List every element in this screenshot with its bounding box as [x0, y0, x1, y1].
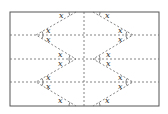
angle-arc	[126, 35, 127, 39]
angle-arc	[99, 59, 100, 62]
horizontal-dashed-lines	[10, 35, 159, 82]
angle-label-x: x	[106, 50, 111, 59]
angle-arc	[42, 32, 43, 35]
outer-rectangle	[10, 12, 159, 106]
angle-label-x: x	[118, 73, 123, 82]
angle-arc	[69, 12, 70, 15]
angle-label-x: x	[58, 50, 63, 59]
angle-arc	[42, 82, 43, 86]
angle-arc	[69, 59, 70, 62]
angle-arc	[69, 55, 70, 59]
angle-arc	[99, 12, 100, 15]
angle-arc	[99, 55, 100, 59]
angle-label-x: x	[46, 35, 51, 44]
angle-label-x: x	[59, 11, 64, 20]
angle-label-x: x	[105, 96, 110, 105]
angle-arc	[69, 102, 70, 106]
angle-label-x: x	[118, 35, 123, 44]
angle-label-x: x	[46, 26, 51, 35]
angle-label-x: x	[118, 26, 123, 35]
angle-label-x: x	[58, 96, 63, 105]
angle-label-x: x	[105, 11, 110, 20]
geometry-diagram: xxxxxxxxxxxxxxxx	[0, 0, 168, 114]
angle-label-x: x	[106, 59, 111, 68]
angle-arc	[126, 32, 127, 35]
angle-label-x: x	[118, 82, 123, 91]
angle-label-x: x	[46, 82, 51, 91]
angle-arc	[42, 35, 43, 39]
angle-arc	[126, 79, 127, 82]
angle-labels: xxxxxxxxxxxxxxxx	[46, 11, 123, 105]
angle-arc	[42, 79, 43, 82]
angle-label-x: x	[58, 59, 63, 68]
angle-label-x: x	[46, 73, 51, 82]
angle-arc	[99, 102, 100, 106]
angle-arc	[126, 82, 127, 86]
